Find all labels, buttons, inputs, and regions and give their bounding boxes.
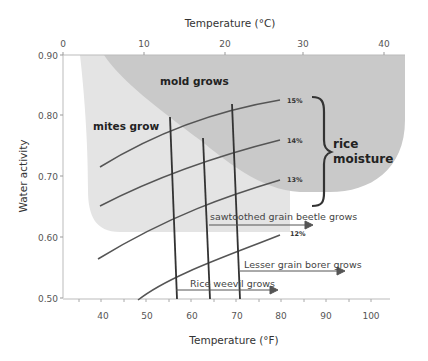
label-13: 13% <box>287 176 303 184</box>
label-14: 14% <box>287 137 303 145</box>
top-tick-label: 20 <box>219 39 231 49</box>
borer-label: Lesser grain borer grows <box>244 259 362 270</box>
bottom-tick-label: 80 <box>275 311 287 321</box>
top-tick-label: 30 <box>297 39 309 49</box>
chart-root: 0 10 20 30 40 Temperature (°C) 0.90 0.80… <box>0 0 428 361</box>
beetle-label: sawtoothed grain beetle grows <box>210 211 357 222</box>
y-tick-label: 0.60 <box>38 233 58 243</box>
y-axis-title: Water activity <box>17 139 29 212</box>
bottom-tick-label: 90 <box>320 311 332 321</box>
mites-label: mites grow <box>93 120 159 132</box>
top-tick-label: 0 <box>60 39 66 49</box>
y-tick-label: 0.70 <box>38 172 58 182</box>
y-tick-label: 0.50 <box>38 294 58 304</box>
y-tick-label: 0.80 <box>38 111 58 121</box>
top-tick-label: 40 <box>378 39 390 49</box>
top-tick-label: 10 <box>138 39 150 49</box>
bottom-tick-label: 50 <box>141 311 153 321</box>
label-15: 15% <box>287 97 303 105</box>
chart-svg: 0 10 20 30 40 Temperature (°C) 0.90 0.80… <box>0 0 428 361</box>
bottom-tick-label: 100 <box>362 311 379 321</box>
label-12: 12% <box>290 230 306 238</box>
y-tick-label: 0.90 <box>38 51 58 61</box>
rice-label: rice <box>333 137 358 151</box>
moisture-label: moisture <box>333 152 393 166</box>
bottom-tick-label: 60 <box>186 311 198 321</box>
mold-label: mold grows <box>160 75 229 87</box>
top-axis-title: Temperature (°C) <box>184 17 276 29</box>
bottom-axis-title: Temperature (°F) <box>188 334 278 346</box>
weevil-label: Rice weevil grows <box>190 278 275 289</box>
bottom-tick-label: 40 <box>97 311 109 321</box>
bottom-tick-label: 70 <box>231 311 243 321</box>
